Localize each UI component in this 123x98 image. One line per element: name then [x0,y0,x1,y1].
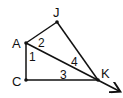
angle-1: 1 [29,50,36,64]
angle-2: 2 [38,36,45,50]
diagram-canvas: J A C K 1 2 3 4 [0,0,123,98]
geometry-diagram: J A C K 1 2 3 4 [0,0,123,98]
angle-4: 4 [71,55,78,69]
label-k: K [101,66,110,81]
point-k [96,78,100,82]
angle-3: 3 [60,68,67,82]
label-j: J [53,5,60,20]
point-a [24,41,28,45]
point-c [24,78,28,82]
label-a: A [12,36,21,51]
label-c: C [12,74,21,89]
point-j [55,20,59,24]
